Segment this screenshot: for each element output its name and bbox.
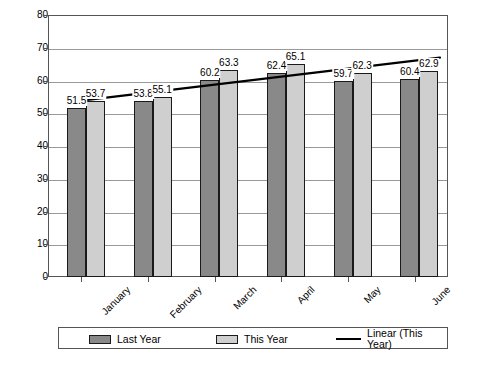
x-axis-tick-mark	[81, 277, 82, 282]
bar-last-year-february[interactable]	[134, 101, 153, 277]
bar-last-year-may[interactable]	[334, 81, 353, 277]
bar-this-year-june[interactable]	[419, 71, 438, 277]
x-axis-tick-mark	[215, 277, 216, 282]
bar-last-year-june[interactable]	[400, 79, 419, 277]
legend-swatch-this-year	[216, 335, 238, 344]
bars-layer	[48, 15, 448, 277]
legend-swatch-last-year	[89, 335, 111, 344]
x-axis-label-april: April	[295, 284, 317, 306]
x-axis-label-march: March	[231, 284, 258, 311]
bar-this-year-february[interactable]	[153, 97, 172, 277]
legend-item-trendline[interactable]: Linear (This Year)	[336, 332, 447, 346]
bar-last-year-april[interactable]	[267, 73, 286, 277]
bar-this-year-march[interactable]	[219, 70, 238, 277]
y-axis: 01020304050607080	[0, 0, 48, 370]
x-axis-tick-mark	[281, 277, 282, 282]
x-axis-label-may: May	[362, 284, 383, 305]
bar-last-year-january[interactable]	[67, 108, 86, 277]
legend: Last Year This Year Linear (This Year)	[58, 327, 448, 349]
x-axis-label-january: January	[100, 284, 133, 317]
x-axis-tick-mark	[348, 277, 349, 282]
legend-label-last-year: Last Year	[117, 334, 161, 345]
x-axis-label-june: June	[429, 284, 452, 307]
y-axis-tick-mark	[43, 277, 48, 278]
bar-last-year-march[interactable]	[200, 80, 219, 277]
legend-label-this-year: This Year	[244, 334, 288, 345]
legend-item-last-year[interactable]: Last Year	[89, 332, 161, 346]
legend-line-trendline	[336, 338, 361, 340]
bar-this-year-may[interactable]	[353, 73, 372, 277]
legend-label-trendline: Linear (This Year)	[367, 328, 447, 350]
x-axis-tick-mark	[148, 277, 149, 282]
bar-this-year-april[interactable]	[286, 64, 305, 277]
bar-this-year-january[interactable]	[86, 101, 105, 277]
x-axis-tick-mark	[415, 277, 416, 282]
x-axis-label-february: February	[168, 284, 204, 320]
legend-item-this-year[interactable]: This Year	[216, 332, 288, 346]
bar-chart: 01020304050607080 51.553.753.855.160.263…	[0, 0, 486, 370]
